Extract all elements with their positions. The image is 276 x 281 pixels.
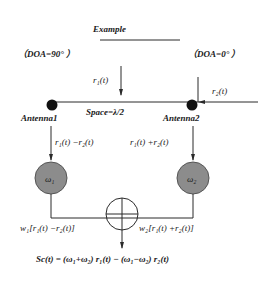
r1-label: r₁(t) <box>93 75 108 85</box>
antenna-2-label: Antenna2 <box>162 113 200 123</box>
weight-2-label: ω₂ <box>187 174 196 184</box>
branch-2-arrowhead-icon <box>191 154 195 161</box>
output-arrowhead-icon <box>120 242 124 249</box>
weighted-branch-1: w₁[r₁(t) −r₂(t)] <box>20 223 75 233</box>
spacing-label: Space=λ/2 <box>86 107 125 117</box>
weighted-branch-2: w₂[r₁(t) +r₂(t)] <box>139 223 194 233</box>
antenna-2-icon <box>187 100 198 111</box>
weight-1-label: ω₁ <box>45 174 54 184</box>
output-equation: Sc(t) = (ω₁+ω₂) r₁(t) − (ω₁−ω₂) r₂(t) <box>36 254 169 264</box>
antenna-1-icon <box>47 100 58 111</box>
antenna-1-label: Antenna1 <box>20 113 58 123</box>
branch-1-arrowhead-icon <box>49 154 53 161</box>
r2-label: r₂(t) <box>212 86 227 96</box>
branch-1-signal: r₁(t) −r₂(t) <box>55 137 94 147</box>
doa-left-label: （DOA=90° ） <box>18 49 75 59</box>
r2-arrowhead-icon <box>198 100 205 104</box>
r1-arrowhead-icon <box>119 89 123 96</box>
branch-2-signal: r₁(t) +r₂(t) <box>130 137 169 147</box>
beamforming-diagram: Example （DOA=90° ） （DOA=0° ） r₁(t) r₂(t)… <box>0 0 276 281</box>
doa-right-label: （DOA=0° ） <box>188 49 240 59</box>
diagram-title: Example <box>92 24 126 34</box>
